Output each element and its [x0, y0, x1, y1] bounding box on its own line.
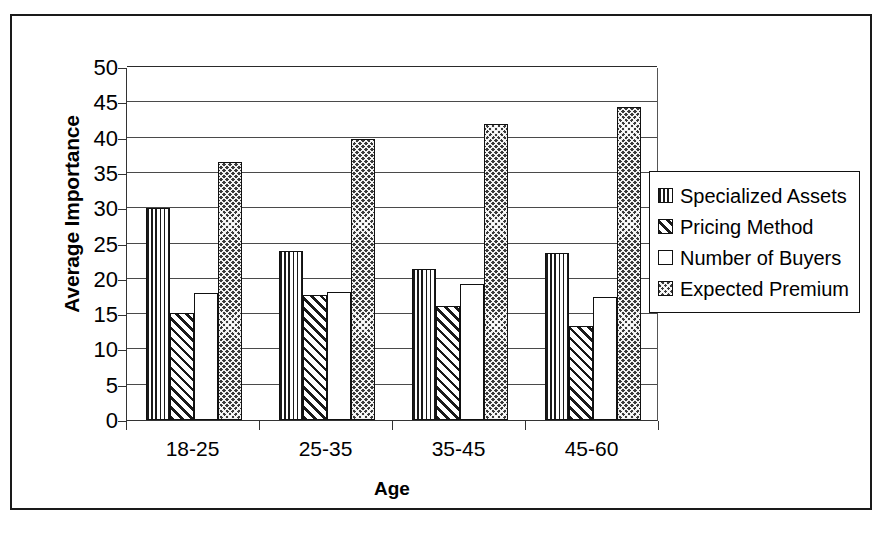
- bar-group: [393, 68, 526, 420]
- y-axis-ticks: 50454035302520151050: [56, 68, 118, 421]
- y-tick-label: 45: [58, 92, 118, 114]
- bar: [146, 208, 170, 420]
- bar: [218, 162, 242, 420]
- bar: [351, 139, 375, 420]
- chart-legend: Specialized AssetsPricing MethodNumber o…: [649, 171, 860, 313]
- bar: [593, 297, 617, 420]
- figure-frame: Average Importance 50454035302520151050 …: [10, 14, 872, 510]
- bar: [617, 107, 641, 420]
- bar: [303, 295, 327, 420]
- x-axis-title: Age: [122, 478, 662, 500]
- bar: [170, 313, 194, 420]
- legend-label: Number of Buyers: [680, 248, 841, 268]
- y-tick-mark: [118, 315, 126, 316]
- y-tick-mark: [118, 174, 126, 175]
- bar: [569, 326, 593, 420]
- y-tick-label: 20: [58, 269, 118, 291]
- bar: [412, 269, 436, 420]
- x-tick-mark: [392, 421, 393, 430]
- y-tick-mark: [118, 103, 126, 104]
- legend-swatch-icon: [658, 250, 673, 265]
- x-tick-label: 25-35: [256, 437, 396, 461]
- chart-figure: Average Importance 50454035302520151050 …: [0, 0, 886, 543]
- y-tick-mark: [118, 350, 126, 351]
- legend-label: Specialized Assets: [680, 186, 847, 206]
- y-tick-label: 15: [58, 304, 118, 326]
- y-tick-mark: [118, 280, 126, 281]
- bar: [194, 293, 218, 420]
- y-tick-label: 40: [58, 128, 118, 150]
- bar: [436, 306, 460, 420]
- y-tick-mark: [118, 139, 126, 140]
- bar: [460, 284, 484, 420]
- bar: [327, 292, 351, 420]
- bar: [279, 251, 303, 420]
- plot-area: [126, 68, 658, 421]
- legend-swatch-icon: [658, 219, 673, 234]
- y-tick-mark: [118, 68, 126, 69]
- y-tick-label: 5: [58, 375, 118, 397]
- legend-item: Specialized Assets: [658, 180, 849, 211]
- bar: [484, 124, 508, 420]
- bar-group: [526, 68, 659, 420]
- y-tick-label: 35: [58, 163, 118, 185]
- x-axis: 18-2525-3535-4545-60: [126, 421, 658, 477]
- y-tick-mark: [118, 209, 126, 210]
- legend-item: Number of Buyers: [658, 242, 849, 273]
- legend-swatch-icon: [658, 281, 673, 296]
- y-tick-label: 25: [58, 234, 118, 256]
- y-tick-label: 0: [58, 410, 118, 432]
- x-tick-label: 35-45: [389, 437, 529, 461]
- x-tick-mark: [525, 421, 526, 430]
- legend-item: Pricing Method: [658, 211, 849, 242]
- legend-label: Expected Premium: [680, 279, 849, 299]
- y-tick-mark: [118, 421, 126, 422]
- gridline: [127, 66, 657, 67]
- y-tick-mark: [118, 245, 126, 246]
- y-tick-mark: [118, 386, 126, 387]
- bar: [545, 253, 569, 420]
- x-tick-label: 45-60: [522, 437, 662, 461]
- y-tick-label: 50: [58, 57, 118, 79]
- x-tick-mark: [126, 421, 127, 430]
- x-tick-label: 18-25: [123, 437, 263, 461]
- legend-label: Pricing Method: [680, 217, 813, 237]
- bar-group: [127, 68, 260, 420]
- bar-group: [260, 68, 393, 420]
- legend-swatch-icon: [658, 188, 673, 203]
- y-tick-label: 30: [58, 198, 118, 220]
- x-tick-mark: [658, 421, 659, 430]
- y-tick-label: 10: [58, 339, 118, 361]
- legend-item: Expected Premium: [658, 273, 849, 304]
- x-tick-mark: [259, 421, 260, 430]
